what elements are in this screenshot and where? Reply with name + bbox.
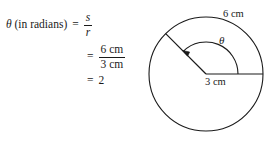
theta-symbol: θ (in radians) — [6, 19, 67, 31]
radius-length-label: 3 cm — [205, 77, 226, 88]
circle-diagram-svg — [137, 0, 274, 148]
equation-line-1: θ (in radians) = s r — [6, 12, 92, 38]
denominator-3cm: 3 cm — [99, 57, 126, 71]
fraction-s-over-r: s r — [84, 12, 92, 38]
numerator-s: s — [84, 12, 92, 25]
equation-line-2: = 6 cm 3 cm — [82, 44, 125, 70]
radians-qualifier: (in radians) — [15, 18, 68, 30]
numerator-6cm: 6 cm — [99, 44, 126, 57]
angle-arc — [183, 42, 238, 74]
equation-block: θ (in radians) = s r = 6 cm 3 cm = 2 — [0, 0, 140, 148]
fraction-6cm-over-3cm: 6 cm 3 cm — [99, 44, 126, 70]
equals-sign-3: = — [87, 75, 94, 87]
equals-sign-2: = — [87, 51, 94, 63]
result-value: 2 — [99, 75, 105, 87]
equals-sign-1: = — [72, 19, 79, 31]
angle-arc-arrowhead — [182, 51, 189, 57]
circle-diagram: 6 cm 3 cm θ — [137, 0, 274, 148]
equation-line-3: = 2 — [82, 75, 104, 87]
arc-length-label: 6 cm — [223, 9, 244, 20]
angle-theta-label: θ — [219, 35, 224, 46]
denominator-r: r — [84, 25, 92, 39]
radian-measure-figure: θ (in radians) = s r = 6 cm 3 cm = 2 — [0, 0, 274, 148]
